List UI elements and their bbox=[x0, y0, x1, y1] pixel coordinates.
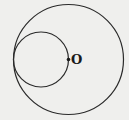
center-label: O bbox=[71, 52, 82, 67]
geometry-diagram: O bbox=[0, 0, 129, 120]
small-circle bbox=[14, 32, 69, 87]
center-point-o bbox=[67, 58, 71, 62]
